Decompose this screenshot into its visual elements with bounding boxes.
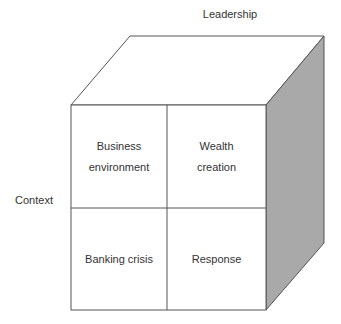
- cell-line: Wealth: [167, 136, 266, 157]
- cell-banking-crisis: Banking crisis: [71, 249, 167, 270]
- cell-business-environment: Business environment: [71, 136, 167, 178]
- cell-line: creation: [167, 157, 266, 178]
- axis-label-context: Context: [0, 190, 68, 211]
- cell-wealth-creation: Wealth creation: [167, 136, 266, 178]
- cell-line: Banking crisis: [71, 249, 167, 270]
- cell-line: environment: [71, 157, 167, 178]
- axis-label-leadership: Leadership: [180, 4, 280, 25]
- cell-line: Response: [167, 249, 266, 270]
- cell-line: Business: [71, 136, 167, 157]
- cell-response: Response: [167, 249, 266, 270]
